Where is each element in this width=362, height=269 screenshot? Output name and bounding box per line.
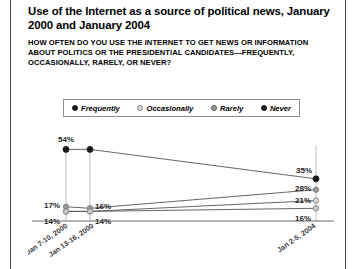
svg-text:21%: 21% <box>295 196 311 205</box>
svg-text:14%: 14% <box>95 217 111 226</box>
figure-content: Use of the Internet as a source of polit… <box>28 0 338 269</box>
svg-text:17%: 17% <box>44 201 60 210</box>
svg-text:54%: 54% <box>58 135 74 144</box>
mid-gray-circle-icon <box>211 105 217 111</box>
right-rule <box>345 0 346 269</box>
legend-label-rarely: Rarely <box>220 104 243 113</box>
legend-label-occasionally: Occasionally <box>146 104 193 113</box>
legend-item-rarely: Rarely <box>211 104 243 113</box>
chart-legend: Frequently Occasionally Rarely Never <box>63 99 300 117</box>
svg-text:16%: 16% <box>295 214 311 223</box>
legend-label-frequently: Frequently <box>81 104 120 113</box>
svg-text:35%: 35% <box>296 166 312 175</box>
figure-page: Use of the Internet as a source of polit… <box>0 0 362 269</box>
legend-item-occasionally: Occasionally <box>137 104 193 113</box>
filled-black-circle-icon <box>261 105 267 111</box>
legend-label-never: Never <box>270 104 291 113</box>
chart-canvas: 54%35%17%16%28%14%14%21%16% Jan 7-10, 20… <box>28 128 338 269</box>
page-title: Use of the Internet as a source of polit… <box>28 5 334 32</box>
svg-text:Jan 2-5, 2004: Jan 2-5, 2004 <box>275 221 317 254</box>
light-gray-circle-icon <box>137 105 143 111</box>
left-rule <box>10 0 11 269</box>
question-text: HOW OFTEN DO YOU USE THE INTERNET TO GET… <box>28 38 320 69</box>
svg-text:Jan 13-16, 2000: Jan 13-16, 2000 <box>47 221 95 259</box>
svg-text:28%: 28% <box>295 184 311 193</box>
x-axis-tick-labels: Jan 7-10, 2000Jan 13-16, 2000Jan 2-5, 20… <box>28 221 317 259</box>
legend-item-never: Never <box>261 104 291 113</box>
filled-black-circle-icon <box>72 105 78 111</box>
legend-item-frequently: Frequently <box>72 104 120 113</box>
svg-text:16%: 16% <box>95 202 111 211</box>
line-chart-plot: 54%35%17%16%28%14%14%21%16% Jan 7-10, 20… <box>28 128 338 269</box>
